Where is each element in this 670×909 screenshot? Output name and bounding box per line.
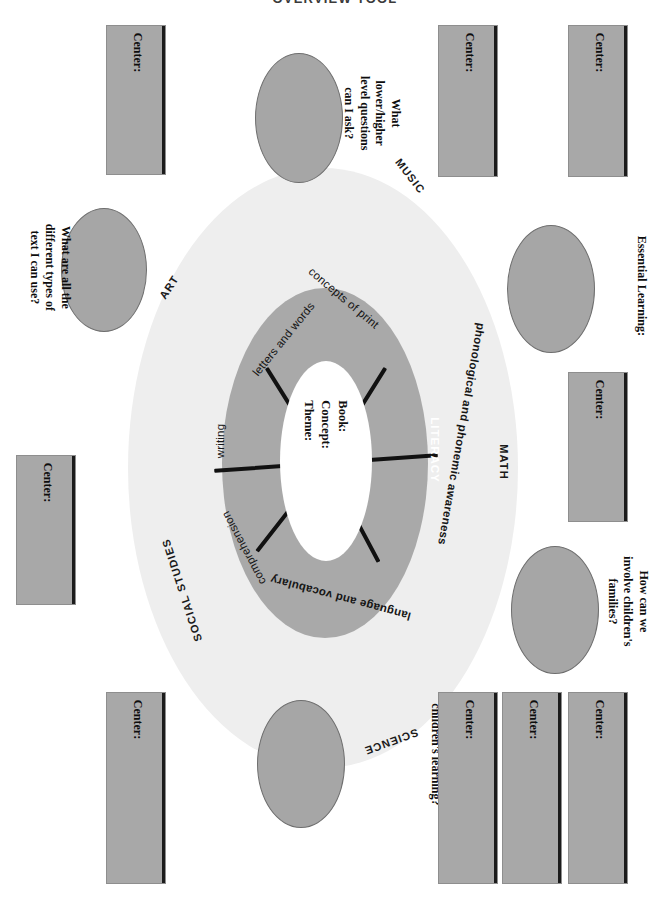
oval-text-types[interactable] xyxy=(61,208,147,332)
ring-label-literacy: LITERACY xyxy=(429,417,441,483)
center-box-1-label: Center: xyxy=(130,33,145,72)
center-line-concept: Concept: xyxy=(318,400,335,460)
page-title: OVERVIEW TOOL xyxy=(0,0,670,6)
center-box-5-label: Center: xyxy=(40,463,55,502)
oval-essential-learning-text: Essential Learning: xyxy=(633,223,649,349)
oval-questions-text: What lower/higher level questions can I … xyxy=(341,53,403,173)
oval-questions[interactable] xyxy=(255,53,343,183)
ring-label-writing: writing xyxy=(214,424,226,459)
worksheet-canvas: OVERVIEW TOOL Book: Concept: Theme: conc… xyxy=(0,0,670,909)
center-box-8-label: Center: xyxy=(526,700,541,739)
oval-families[interactable] xyxy=(511,546,599,674)
center-hole xyxy=(280,361,372,561)
oval-text-types-text: What are all the different types of text… xyxy=(27,208,74,326)
center-box-2-label: Center: xyxy=(462,33,477,72)
center-box-4-label: Center: xyxy=(592,380,607,419)
oval-families-text: How can we involve children's families? xyxy=(605,538,652,664)
center-line-theme: Theme: xyxy=(301,400,318,460)
center-box-6-label: Center: xyxy=(130,700,145,739)
center-box-3-label: Center: xyxy=(592,33,607,72)
center-book-concept-theme: Book: Concept: Theme: xyxy=(301,400,352,460)
center-box-7-label: Center: xyxy=(462,700,477,739)
center-box-9-label: Center: xyxy=(592,700,607,739)
subject-label-math: MATH xyxy=(498,444,510,479)
oval-essential-learning[interactable] xyxy=(507,225,595,353)
oval-observe-document[interactable] xyxy=(257,700,345,828)
center-line-book: Book: xyxy=(334,400,351,460)
